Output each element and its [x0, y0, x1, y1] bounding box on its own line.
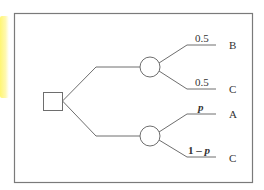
probability-label-upper-1: 0.5: [195, 32, 209, 44]
probability-variable: p: [204, 144, 211, 156]
probability-label-lower-1: p: [197, 101, 204, 113]
probability-label-lower-2: 1 – p: [188, 144, 211, 156]
outcome-label-upper-1: B: [229, 39, 236, 51]
outcome-label-upper-2: C: [229, 83, 236, 95]
outcome-label-lower-2: C: [229, 152, 236, 164]
decision-branch-upper: [63, 67, 141, 101]
chance-node-lower: [140, 126, 160, 146]
chance-branch-upper-1: [159, 45, 216, 63]
outcome-label-lower-1: A: [229, 108, 237, 120]
decision-branch-lower: [63, 101, 141, 136]
probability-label-upper-2: 0.5: [195, 76, 209, 88]
chance-branch-lower-1: [159, 114, 216, 132]
decision-node-square: [44, 93, 63, 111]
decision-tree-diagram: 0.5 B 0.5 C p A 1 – p C: [0, 0, 264, 190]
probability-prefix: 1 –: [188, 144, 205, 156]
chance-node-upper: [140, 57, 160, 77]
